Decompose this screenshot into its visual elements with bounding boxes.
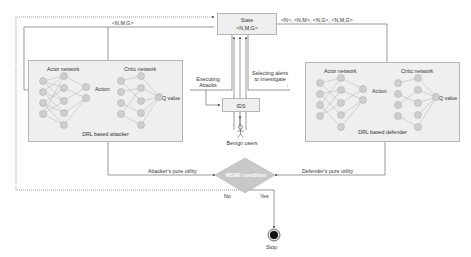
yes-label: Yes bbox=[260, 193, 269, 199]
ids-label: IDS bbox=[223, 103, 259, 109]
no-label: No bbox=[224, 193, 231, 199]
msne-condition-label: MSNE condition bbox=[224, 172, 268, 178]
user-icon bbox=[236, 124, 245, 138]
defender-networks bbox=[306, 63, 461, 143]
selecting-alerts-label: Selecting alerts to investigate bbox=[250, 70, 290, 83]
attacker-state-label: <N,M,G> bbox=[112, 20, 134, 26]
executing-attacks-label: Executing Attacks bbox=[190, 76, 226, 89]
state-title: State bbox=[218, 17, 276, 23]
defender-state-label: <N>, <N,M>, <N,G>, <N,M,G> bbox=[281, 17, 353, 23]
benign-users-label: Benign users bbox=[220, 140, 264, 146]
attacker-networks bbox=[29, 61, 184, 143]
ids-box: IDS bbox=[222, 98, 260, 112]
defender-box: Actor network Critic network Action Q va… bbox=[305, 62, 460, 142]
state-value: <N,M,G> bbox=[218, 25, 276, 31]
defender-utility-label: Defender's pure utility bbox=[302, 168, 353, 174]
stop-label: Stop bbox=[266, 244, 277, 250]
attacker-utility-label: Attacker's pure utility bbox=[148, 168, 197, 174]
state-box: State <N,M,G> bbox=[217, 13, 277, 35]
attacker-box: Actor network Critic network Action Q va… bbox=[28, 60, 183, 142]
